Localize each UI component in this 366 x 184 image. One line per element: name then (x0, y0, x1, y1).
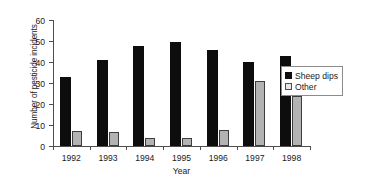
x-tick-1993 (90, 146, 91, 150)
bar-group-1996 (207, 20, 230, 146)
bar-group-1997 (243, 20, 266, 146)
legend-label-sheep-dips: Sheep dips (295, 71, 338, 81)
x-tick-1994 (126, 146, 127, 150)
chart-legend: Sheep dips Other (281, 66, 343, 96)
bar-other-1992 (72, 131, 82, 146)
bar-group-1995 (170, 20, 193, 146)
y-tick-50: 50 (49, 41, 53, 42)
bar-other-1993 (109, 132, 119, 146)
bar-other-1996 (219, 130, 229, 146)
pesticide-incidents-bar-chart: Number of pesticide incidents 0 10 20 30… (0, 0, 366, 184)
x-tick-label-1997: 1997 (237, 153, 274, 163)
x-axis-title: Year (53, 166, 310, 176)
bar-sheep-dips-1993 (97, 60, 108, 146)
bar-group-1993 (97, 20, 120, 146)
x-tick-label-1995: 1995 (163, 153, 200, 163)
bar-other-1997 (255, 81, 265, 146)
x-tick-label-1993: 1993 (90, 153, 127, 163)
y-tick-label-40: 40 (35, 58, 45, 67)
bar-other-1995 (182, 138, 192, 146)
bar-other-1998 (292, 96, 302, 146)
x-tick-label-1998: 1998 (273, 153, 310, 163)
x-tick-1995 (163, 146, 164, 150)
y-tick-label-50: 50 (35, 37, 45, 46)
bar-group-1994 (133, 20, 156, 146)
x-axis-line (53, 146, 310, 147)
y-tick-label-20: 20 (35, 100, 45, 109)
y-tick-label-10: 10 (35, 121, 45, 130)
x-tick-1998 (273, 146, 274, 150)
legend-item-other: Other (285, 81, 338, 92)
legend-swatch-other (285, 83, 292, 90)
bar-sheep-dips-1992 (60, 77, 71, 146)
y-axis-line (53, 20, 54, 147)
x-tick-1996 (200, 146, 201, 150)
bar-sheep-dips-1997 (243, 62, 254, 146)
x-tick-end (310, 146, 311, 150)
bar-other-1994 (145, 138, 155, 146)
x-tick-label-1992: 1992 (53, 153, 90, 163)
y-tick-10: 10 (49, 125, 53, 126)
y-tick-label-0: 0 (40, 142, 45, 151)
y-tick-30: 30 (49, 83, 53, 84)
bar-group-1992 (60, 20, 83, 146)
x-tick-label-1994: 1994 (126, 153, 163, 163)
bar-sheep-dips-1996 (207, 50, 218, 146)
bar-sheep-dips-1994 (133, 46, 144, 146)
legend-label-other: Other (295, 82, 317, 92)
bar-sheep-dips-1995 (170, 42, 181, 146)
x-tick-label-1996: 1996 (200, 153, 237, 163)
x-tick-1997 (237, 146, 238, 150)
y-tick-label-30: 30 (35, 79, 45, 88)
y-tick-60: 60 (49, 20, 53, 21)
x-tick-1992 (53, 146, 54, 150)
legend-item-sheep-dips: Sheep dips (285, 70, 338, 81)
plot-area: 0 10 20 30 40 50 60 19921993199419951996… (53, 20, 310, 146)
y-tick-label-60: 60 (35, 16, 45, 25)
y-tick-20: 20 (49, 104, 53, 105)
legend-swatch-sheep-dips (285, 72, 292, 79)
y-tick-40: 40 (49, 62, 53, 63)
